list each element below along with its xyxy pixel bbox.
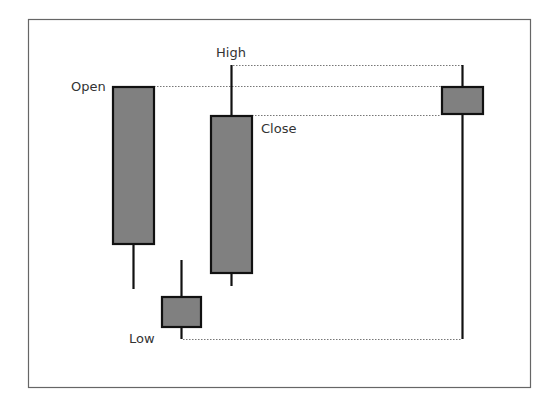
candle-1-body: [113, 87, 154, 244]
candle-3-body: [211, 116, 252, 273]
candle-2-body: [162, 297, 201, 327]
candle-summary-body: [442, 87, 483, 114]
label-low: Low: [129, 332, 155, 345]
label-high: High: [216, 46, 246, 59]
diagram-frame: [29, 20, 531, 388]
label-close: Close: [261, 122, 296, 135]
label-open: Open: [71, 80, 106, 93]
candlestick-diagram: Open High Close Low: [0, 0, 554, 407]
diagram-canvas: [0, 0, 554, 407]
